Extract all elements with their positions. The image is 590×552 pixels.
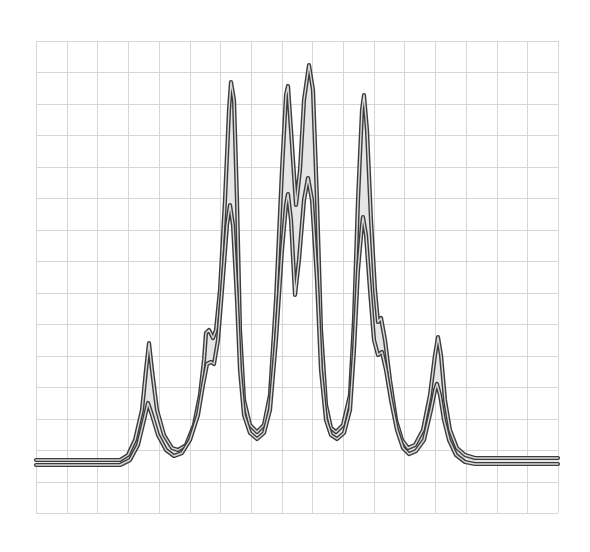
spectrum-chart [0, 0, 590, 552]
